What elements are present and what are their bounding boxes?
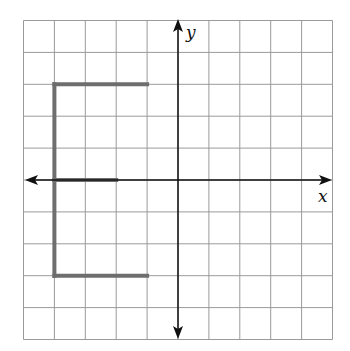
x-axis-label: x — [318, 186, 328, 206]
y-axis-label: y — [185, 22, 196, 42]
coordinate-plane: y x — [0, 0, 350, 351]
